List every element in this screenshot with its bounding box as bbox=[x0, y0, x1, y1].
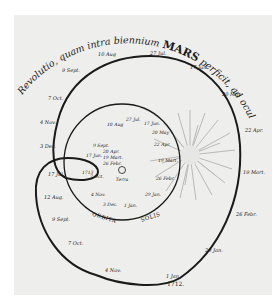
svg-text:4 Nov.: 4 Nov. bbox=[104, 267, 121, 273]
svg-text:1 Jan.: 1 Jan. bbox=[124, 203, 138, 208]
svg-text:10 Aug: 10 Aug bbox=[98, 51, 116, 58]
earth-icon: Terra bbox=[116, 167, 129, 183]
svg-text:9 Sept.: 9 Sept. bbox=[62, 67, 80, 74]
svg-text:27 Jul.: 27 Jul. bbox=[125, 117, 141, 122]
svg-text:20 Apr.: 20 Apr. bbox=[102, 149, 120, 154]
start-year: 1712. bbox=[167, 280, 184, 287]
svg-text:Terra: Terra bbox=[116, 177, 129, 182]
svg-text:17 Jul.: 17 Jul. bbox=[48, 171, 65, 178]
svg-text:26 Febr.: 26 Febr. bbox=[155, 176, 175, 181]
svg-text:27 Jul.: 27 Jul. bbox=[149, 50, 167, 57]
svg-text:1 Jan.: 1 Jan. bbox=[166, 273, 181, 280]
svg-text:9 Sept.: 9 Sept. bbox=[52, 216, 70, 223]
svg-text:7 Oct.: 7 Oct. bbox=[48, 95, 64, 101]
svg-text:12 Aug.: 12 Aug. bbox=[44, 194, 64, 201]
svg-text:17 Jun.: 17 Jun. bbox=[144, 121, 161, 126]
svg-text:7 Oct.: 7 Oct. bbox=[90, 174, 104, 179]
svg-text:19 Mart.: 19 Mart. bbox=[158, 158, 178, 163]
svg-text:10 Aug: 10 Aug bbox=[107, 122, 123, 127]
svg-text:26 Febr.: 26 Febr. bbox=[235, 211, 257, 217]
svg-text:17 Jun.: 17 Jun. bbox=[190, 64, 208, 71]
svg-text:3 Dec.: 3 Dec. bbox=[103, 202, 118, 207]
sun-icon bbox=[150, 110, 235, 200]
svg-text:29 Jan.: 29 Jan. bbox=[204, 247, 223, 254]
svg-text:17 Jun.: 17 Jun. bbox=[86, 153, 103, 158]
svg-text:9 Sept.: 9 Sept. bbox=[93, 143, 110, 148]
svg-text:26 Febr.: 26 Febr. bbox=[102, 161, 122, 166]
svg-text:19 Mart.: 19 Mart. bbox=[243, 169, 265, 175]
diagram-title: Revolutio, quam intra biennium MARS perf… bbox=[0, 0, 258, 120]
svg-text:3 Dec.: 3 Dec. bbox=[40, 143, 57, 149]
orbita-caption: ORBITA bbox=[91, 211, 117, 225]
svg-text:20 May: 20 May bbox=[151, 130, 169, 135]
svg-text:4 Nov.: 4 Nov. bbox=[39, 119, 56, 125]
mars-revolution-diagram: Revolutio, quam intra biennium MARS perf… bbox=[0, 0, 276, 302]
svg-text:20 May: 20 May bbox=[221, 91, 241, 98]
svg-text:19 Mart.: 19 Mart. bbox=[103, 155, 123, 160]
svg-text:29 Jan.: 29 Jan. bbox=[144, 192, 162, 197]
svg-text:22 Apr.: 22 Apr. bbox=[153, 142, 171, 147]
svg-text:7 Oct.: 7 Oct. bbox=[68, 240, 84, 246]
svg-text:22 Apr.: 22 Apr. bbox=[244, 127, 264, 134]
svg-text:4 Nov.: 4 Nov. bbox=[90, 192, 106, 197]
